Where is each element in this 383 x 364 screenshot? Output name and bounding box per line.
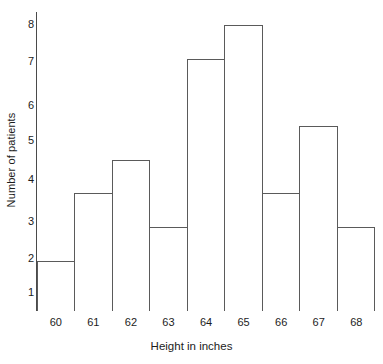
bar-60 xyxy=(37,261,75,312)
bar-66 xyxy=(262,193,300,311)
bar-63 xyxy=(149,227,187,311)
y-tick-label-1: 1 xyxy=(28,287,34,298)
bar-68 xyxy=(337,227,375,311)
histogram-bars xyxy=(37,8,375,311)
bar-67 xyxy=(299,126,337,311)
y-tick-label-4: 4 xyxy=(28,174,34,185)
x-tick-label-60: 60 xyxy=(37,313,75,331)
histogram-chart: Number of patients 8 7 6 5 4 3 2 1 60 61… xyxy=(0,0,383,364)
x-tick-label-65: 65 xyxy=(225,313,263,331)
x-tick-label-61: 61 xyxy=(75,313,113,331)
y-axis-title-text: Number of patients xyxy=(5,113,17,208)
x-axis-title: Height in inches xyxy=(0,336,383,356)
bar-64 xyxy=(187,59,225,312)
y-tick-label-7: 7 xyxy=(28,56,34,67)
x-tick-label-62: 62 xyxy=(112,313,150,331)
plot-area xyxy=(37,8,375,311)
x-axis-title-text: Height in inches xyxy=(151,340,233,352)
bar-61 xyxy=(74,193,112,311)
x-tick-label-67: 67 xyxy=(300,313,338,331)
x-tick-label-68: 68 xyxy=(338,313,376,331)
x-tick-label-64: 64 xyxy=(187,313,225,331)
x-tick-label-63: 63 xyxy=(150,313,188,331)
y-tick-label-3: 3 xyxy=(28,216,34,227)
x-axis-tick-labels: 60 61 62 63 64 65 66 67 68 xyxy=(37,313,375,331)
bar-62 xyxy=(112,160,150,312)
y-tick-label-8: 8 xyxy=(28,19,34,30)
y-axis-tick-labels: 8 7 6 5 4 3 2 1 xyxy=(18,0,34,320)
bar-65 xyxy=(224,25,262,311)
y-tick-label-2: 2 xyxy=(28,253,34,264)
y-tick-label-6: 6 xyxy=(28,100,34,111)
x-tick-label-66: 66 xyxy=(262,313,300,331)
y-tick-label-5: 5 xyxy=(28,135,34,146)
